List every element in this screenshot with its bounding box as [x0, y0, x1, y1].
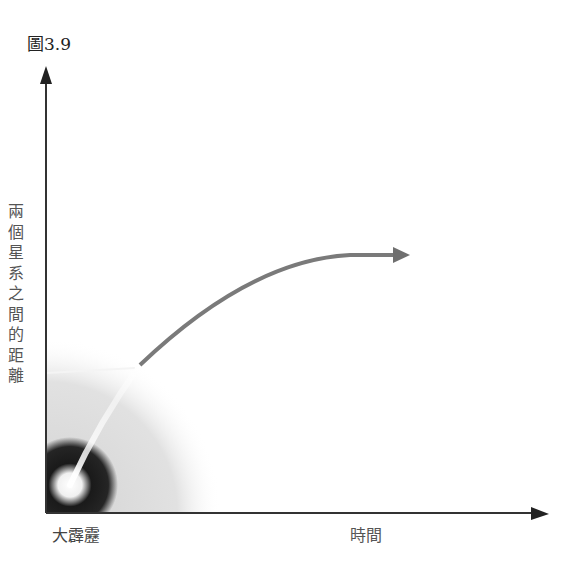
y-axis-arrowhead: [40, 66, 52, 84]
big-bang-glow: [22, 330, 226, 533]
diagram-canvas: [0, 0, 567, 561]
x-axis-label: 時間: [350, 522, 382, 546]
y-axis-label: 兩 個 星 系 之 間 的 距 離: [6, 202, 26, 387]
x-axis-arrowhead: [531, 507, 549, 520]
curve-arrowhead: [393, 247, 410, 263]
big-bang-label: 大霹靂: [52, 522, 100, 546]
